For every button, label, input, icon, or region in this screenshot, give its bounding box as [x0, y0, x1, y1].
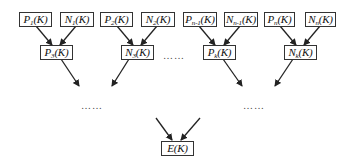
node-pn: Pn(K) — [264, 12, 295, 27]
node-pn-1: Pn-1(K) — [183, 12, 217, 27]
node-arg: (K) — [242, 13, 256, 25]
edge-pn1-pk — [199, 26, 215, 45]
edge-nk-down — [275, 59, 293, 86]
node-e: E(K) — [161, 141, 194, 156]
node-arg: (K) — [33, 13, 47, 25]
edge-left-to-e — [156, 118, 172, 140]
edge-n1-p3 — [60, 26, 76, 45]
node-subscript: n-1 — [192, 19, 201, 27]
edge-p3-down — [61, 59, 79, 86]
node-pk: Pk(K) — [203, 45, 236, 60]
edge-n2-n3 — [141, 26, 157, 45]
node-arg: (K) — [298, 46, 312, 58]
ellipsis-left: …… — [81, 101, 103, 111]
node-subscript: n-1 — [233, 19, 242, 27]
node-n2: N2(K) — [141, 12, 175, 27]
edge-nn1-pk — [224, 26, 240, 45]
node-p2: P2(K) — [100, 12, 133, 27]
edge-p2-n3 — [117, 26, 133, 45]
node-nn: Nn(K) — [305, 12, 336, 27]
node-arg: (K) — [277, 13, 291, 25]
edge-right-to-e — [181, 118, 200, 140]
node-p1: P1(K) — [19, 12, 52, 27]
node-arg: (K) — [136, 46, 150, 58]
node-p3: P3(K) — [40, 45, 73, 60]
node-arg: (K) — [54, 46, 68, 58]
edge-nn-nk — [304, 26, 320, 45]
node-base: N — [146, 13, 153, 25]
node-base: N — [288, 46, 295, 58]
edge-p1-p3 — [36, 26, 52, 45]
edge-pk-down — [223, 59, 242, 86]
node-arg: (K) — [217, 46, 231, 58]
edge-n3-down — [112, 59, 129, 86]
node-arg: (K) — [201, 13, 215, 25]
node-n1: N1(K) — [60, 12, 94, 27]
aggregation-tree-diagram: P1(K) N1(K) P2(K) N2(K) Pn-1(K) Nn-1(K) … — [0, 0, 349, 165]
node-nk: Nk(K) — [284, 45, 317, 60]
node-arg: (K) — [156, 13, 170, 25]
node-arg: (K) — [319, 13, 333, 25]
ellipsis-middle: …… — [163, 51, 185, 61]
ellipsis-right: …… — [243, 101, 265, 111]
edge-pn-nk — [280, 26, 296, 45]
node-n3: N3(K) — [121, 45, 154, 60]
node-arg: (K) — [174, 142, 188, 154]
node-arg: (K) — [114, 13, 128, 25]
node-arg: (K) — [75, 13, 89, 25]
node-nn-1: Nn-1(K) — [224, 12, 258, 27]
node-base: N — [65, 13, 72, 25]
